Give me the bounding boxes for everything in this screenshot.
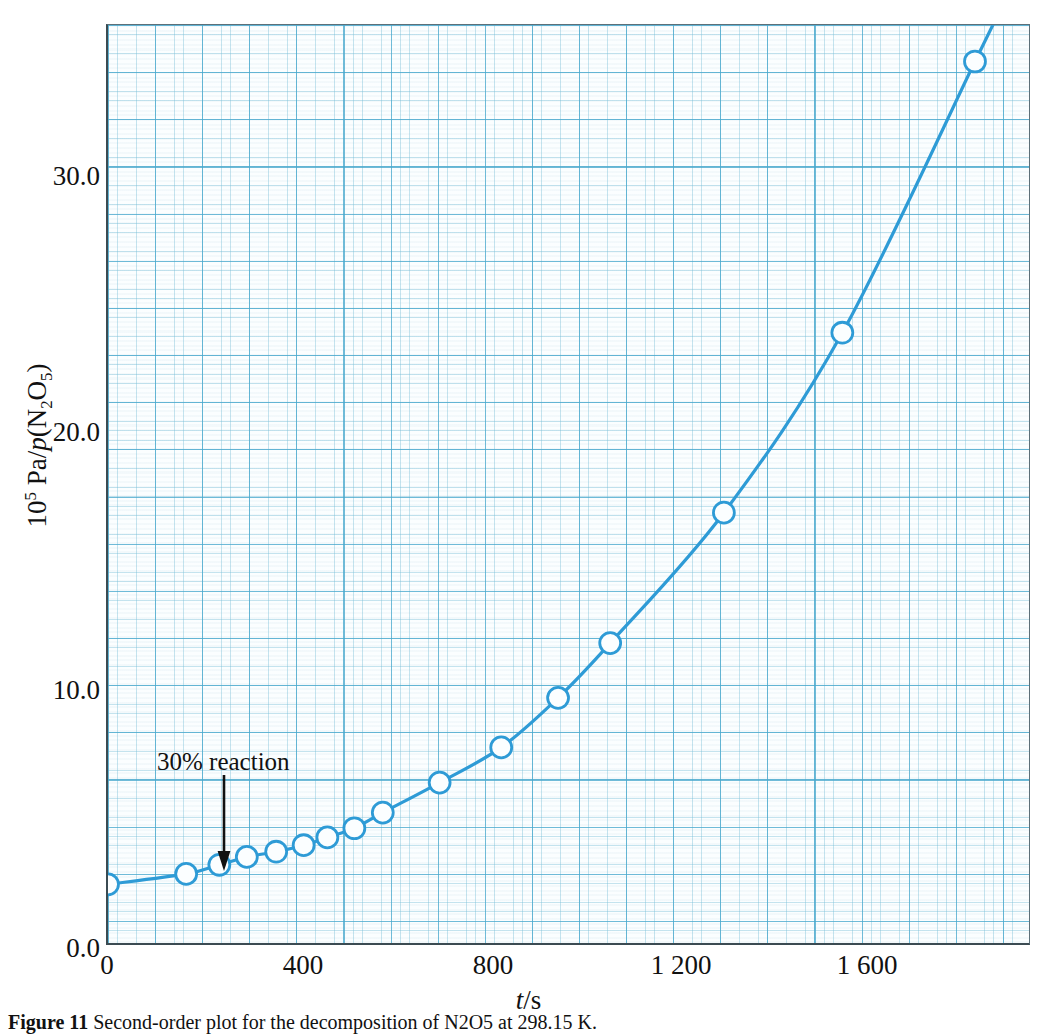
data-point-marker: [965, 51, 986, 72]
y-tick-0: 0.0: [38, 935, 100, 962]
data-point-marker: [344, 818, 365, 839]
data-point-marker: [176, 863, 197, 884]
x-tick-400: 400: [283, 952, 324, 979]
y-axis-title: 105 Pa/p(N2O5): [22, 246, 53, 646]
x-tick-800: 800: [473, 952, 514, 979]
data-point-marker: [266, 841, 287, 862]
figure-caption-text: Second-order plot for the decomposition …: [93, 1011, 597, 1033]
data-point-marker: [713, 502, 734, 523]
data-point-marker: [317, 827, 338, 848]
figure-caption: Figure 11 Second-order plot for the deco…: [8, 1010, 1048, 1035]
data-point-marker: [548, 687, 569, 708]
y-axis-title-close: ): [22, 364, 52, 373]
y-axis-title-sub-5: 5: [37, 373, 56, 381]
data-point-marker: [108, 874, 118, 895]
y-axis-title-o: O: [22, 381, 52, 401]
data-point-marker: [491, 737, 512, 758]
y-axis-title-p: p: [22, 437, 52, 451]
y-axis-title-sub-2: 2: [37, 400, 56, 408]
data-point-marker: [236, 846, 257, 867]
reaction-annotation-arrow-icon: [215, 775, 233, 873]
y-tick-10: 10.0: [38, 677, 100, 704]
x-tick-1600: 1 600: [837, 952, 898, 979]
figure-caption-label: Figure 11: [8, 1011, 88, 1033]
y-axis-title-mid: Pa/: [22, 451, 52, 492]
y-axis-title-exponent: 5: [21, 492, 40, 500]
x-tick-1200: 1 200: [651, 952, 712, 979]
y-axis-title-prefix: 10: [22, 500, 52, 527]
data-point-marker: [832, 322, 853, 343]
plot-area: [106, 24, 1030, 945]
y-axis-title-open: (N: [22, 409, 52, 438]
reaction-annotation-label: 30% reaction: [157, 748, 290, 776]
y-tick-30: 30.0: [38, 163, 100, 190]
data-point-marker: [429, 772, 450, 793]
x-tick-0: 0: [100, 952, 114, 979]
data-point-marker: [293, 835, 314, 856]
data-point-marker: [600, 633, 621, 654]
data-point-marker: [372, 802, 393, 823]
data-curve-svg: [108, 25, 1029, 943]
